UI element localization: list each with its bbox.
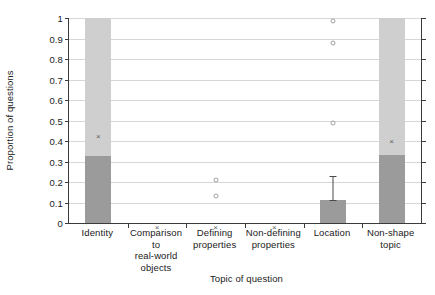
y-axis-tick (65, 59, 69, 60)
y-axis-tick-right (421, 162, 426, 163)
gridline (69, 80, 421, 81)
y-axis-tick-right (421, 100, 426, 101)
circle-marker (331, 18, 336, 23)
y-axis-tick-label: 0.3 (49, 156, 63, 167)
gridline (69, 182, 421, 183)
x-axis-category-label: Location (303, 227, 362, 239)
circle-marker (213, 178, 218, 183)
y-axis-tick-right (421, 18, 426, 19)
bar-segment-lower (85, 156, 111, 223)
x-axis-category-label-line: topic (361, 239, 420, 251)
circle-marker (213, 193, 218, 198)
y-axis-tick (65, 80, 69, 81)
gridline (69, 203, 421, 204)
y-axis-tick-label: 0.5 (49, 115, 63, 126)
bar-segment-upper (85, 18, 111, 156)
x-axis-category-label: Identity (68, 227, 127, 239)
gridline (69, 39, 421, 40)
y-axis-title: Proportion of questions (3, 18, 17, 223)
gridline (69, 59, 421, 60)
gridline (69, 100, 421, 101)
x-axis-category-label: Comparison toreal-worldobjects (127, 227, 186, 273)
y-axis-tick-label: 0.6 (49, 95, 63, 106)
y-axis-tick-label: 0.2 (49, 177, 63, 188)
y-axis-tick-right (421, 39, 426, 40)
y-axis-tick (65, 121, 69, 122)
y-axis-tick-right (421, 121, 426, 122)
x-axis-category-label-line: Defining (185, 227, 244, 239)
bar-segment-lower (379, 155, 405, 223)
y-axis-tick-right (421, 182, 426, 183)
x-axis-title: Topic of question (73, 273, 420, 284)
x-axis-category-label: Non-definingproperties (244, 227, 303, 250)
x-axis-category-label-line: Comparison to (127, 227, 186, 250)
x-axis-category-label: Definingproperties (185, 227, 244, 250)
bar (379, 18, 405, 223)
y-axis-tick (65, 39, 69, 40)
x-axis-category-label-line: real-world (127, 250, 186, 262)
error-bar-cap-upper (330, 176, 337, 177)
bar (320, 200, 346, 223)
circle-marker (331, 41, 336, 46)
error-bar-line (333, 176, 334, 200)
gridline (69, 121, 421, 122)
x-axis-category-label: Non-shapetopic (361, 227, 420, 250)
circle-marker (331, 121, 336, 126)
x-axis-category-label-line: properties (244, 239, 303, 251)
y-axis-tick (65, 182, 69, 183)
bar-segment-upper (379, 18, 405, 155)
y-axis-tick (65, 162, 69, 163)
error-bar-cap-lower (330, 200, 337, 201)
y-axis-tick (65, 223, 69, 224)
bar (85, 18, 111, 223)
x-axis-category-label-line: properties (185, 239, 244, 251)
y-axis-tick-right (421, 203, 426, 204)
x-axis-category-label-line: Location (303, 227, 362, 239)
y-axis-tick (65, 203, 69, 204)
y-axis-tick-label: 0.9 (49, 33, 63, 44)
y-axis-tick-right (421, 80, 426, 81)
gridline (69, 18, 421, 19)
y-axis-tick-label: 0.4 (49, 136, 63, 147)
y-axis-tick (65, 18, 69, 19)
y-axis-tick-label: 0 (58, 218, 63, 229)
y-axis-tick-label: 0.7 (49, 74, 63, 85)
y-axis-tick-label: 0.1 (49, 197, 63, 208)
y-axis-tick-label: 1 (58, 13, 63, 24)
x-axis-category-label-line: objects (127, 262, 186, 274)
x-axis-category-label-line: Non-shape (361, 227, 420, 239)
gridline (69, 162, 421, 163)
bar-segment-lower (320, 200, 346, 223)
gridline (69, 141, 421, 142)
chart-container: Proportion of questions 00.10.20.30.40.5… (0, 0, 435, 295)
y-axis-tick (65, 141, 69, 142)
plot-area: 00.10.20.30.40.50.60.70.80.91××××× (68, 18, 422, 224)
x-axis-category-label-line: Non-defining (244, 227, 303, 239)
y-axis-tick-right (421, 223, 426, 224)
y-axis-tick-right (421, 59, 426, 60)
y-axis-tick-right (421, 141, 426, 142)
x-axis-category-label-line: Identity (68, 227, 127, 239)
y-axis-tick-label: 0.8 (49, 54, 63, 65)
y-axis-tick (65, 100, 69, 101)
